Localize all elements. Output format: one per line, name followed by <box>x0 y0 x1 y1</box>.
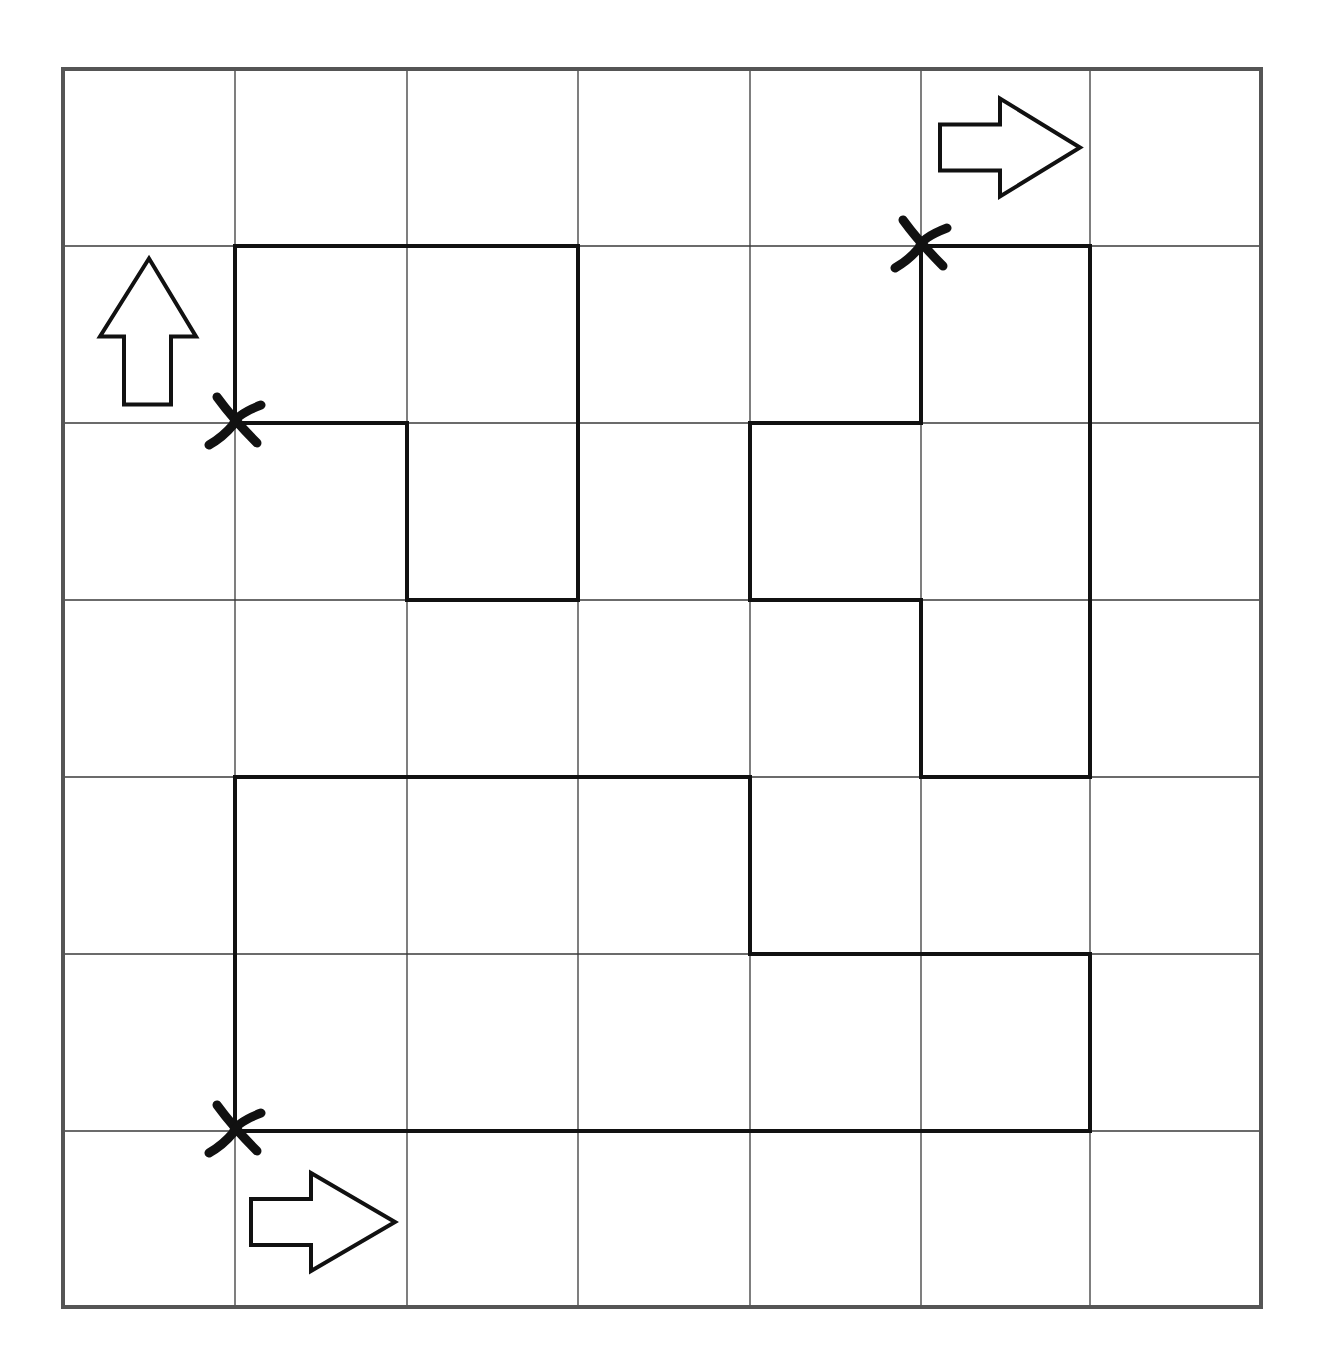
path-top-right <box>750 246 1090 777</box>
paths <box>235 246 1090 1131</box>
arrow-up-top-left-icon <box>100 259 196 405</box>
arrow-right-top-right-icon <box>940 99 1080 197</box>
arrows <box>100 99 1080 1272</box>
arrow-right-bottom-icon <box>251 1173 395 1271</box>
puzzle-board <box>0 0 1321 1371</box>
